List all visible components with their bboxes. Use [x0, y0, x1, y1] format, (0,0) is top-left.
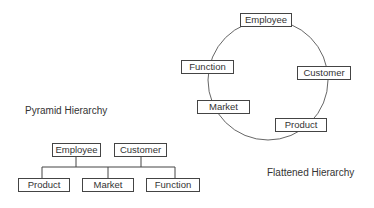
flat-node-market: Market — [197, 100, 250, 114]
pyramid-connectors — [42, 156, 175, 178]
pyramid-node-market: Market — [82, 178, 134, 192]
flat-node-function: Function — [181, 60, 234, 74]
pyramid-node-employee: Employee — [52, 143, 101, 157]
pyramid-hierarchy-title: Pyramid Hierarchy — [25, 105, 107, 116]
flattened-hierarchy-title: Flattened Hierarchy — [267, 167, 354, 178]
flat-node-product: Product — [275, 118, 327, 132]
pyramid-node-function: Function — [146, 178, 200, 192]
pyramid-node-customer: Customer — [114, 143, 167, 157]
pyramid-node-product: Product — [18, 178, 70, 192]
flat-node-customer: Customer — [297, 66, 351, 80]
flat-node-employee: Employee — [240, 13, 292, 27]
